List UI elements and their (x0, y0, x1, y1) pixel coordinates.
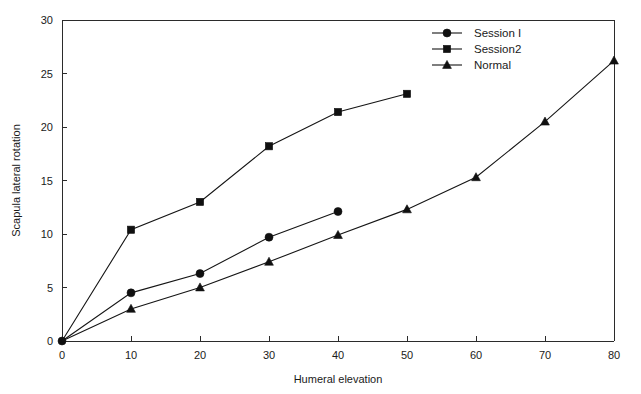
data-point (127, 226, 134, 233)
x-tick-label: 0 (59, 349, 65, 361)
y-tick-label: 20 (41, 121, 53, 133)
x-tick-label: 60 (470, 349, 482, 361)
data-point (334, 208, 342, 216)
data-series-group (58, 56, 618, 345)
data-point (196, 198, 203, 205)
data-point (403, 205, 412, 213)
chart-figure: 01020304050607080 051015202530 Session I… (0, 0, 641, 394)
legend-entry: Normal (432, 59, 511, 71)
chart-legend: Session ISession2Normal (432, 27, 521, 71)
x-tick-label: 50 (401, 349, 413, 361)
x-tick-label: 40 (332, 349, 344, 361)
x-tick-label: 10 (125, 349, 137, 361)
legend-label: Session I (474, 27, 521, 39)
y-tick-label: 10 (41, 228, 53, 240)
plot-frame (62, 20, 614, 341)
x-axis-title: Humeral elevation (294, 373, 383, 385)
data-point (334, 108, 341, 115)
series-1 (58, 208, 342, 345)
y-axis-title: Scapula lateral rotation (10, 124, 22, 237)
y-tick-label: 30 (41, 14, 53, 26)
legend-label: Session2 (474, 43, 521, 55)
y-tick-label: 5 (47, 282, 53, 294)
y-tick-label: 15 (41, 175, 53, 187)
series-line (62, 94, 407, 341)
line-chart: 01020304050607080 051015202530 Session I… (0, 0, 641, 394)
data-point (265, 233, 273, 241)
y-tick-label: 0 (47, 335, 53, 347)
y-axis-ticks: 051015202530 (41, 14, 67, 347)
legend-swatch-marker (443, 29, 451, 37)
series-line (62, 61, 614, 341)
x-tick-label: 20 (194, 349, 206, 361)
x-axis-ticks: 01020304050607080 (59, 336, 620, 361)
data-point (265, 143, 272, 150)
data-point (265, 257, 274, 265)
x-tick-label: 80 (608, 349, 620, 361)
legend-label: Normal (474, 59, 511, 71)
legend-swatch-marker (443, 60, 452, 68)
legend-swatch-marker (443, 45, 450, 52)
legend-entry: Session I (432, 27, 521, 39)
data-point (196, 270, 204, 278)
y-tick-label: 25 (41, 68, 53, 80)
data-point (127, 289, 135, 297)
x-tick-label: 30 (263, 349, 275, 361)
series-3 (62, 56, 618, 341)
data-point (610, 56, 619, 64)
series-2 (62, 90, 411, 341)
x-tick-label: 70 (539, 349, 551, 361)
legend-entry: Session2 (432, 43, 521, 55)
data-point (403, 90, 410, 97)
data-point (472, 173, 481, 181)
